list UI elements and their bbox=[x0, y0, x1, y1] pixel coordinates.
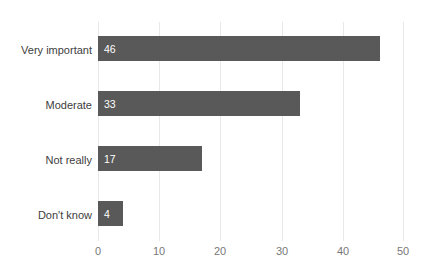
chart-title bbox=[14, 0, 414, 3]
x-axis-tick-label: 0 bbox=[95, 246, 101, 257]
y-axis-label: Very important bbox=[0, 45, 92, 56]
bar-row: 46 bbox=[98, 22, 404, 77]
y-axis-label: Don't know bbox=[0, 210, 92, 221]
plot-area: 46 33 17 4 bbox=[98, 22, 404, 241]
bar-value-label: 46 bbox=[104, 43, 116, 54]
x-axis-tick-label: 40 bbox=[337, 246, 349, 257]
x-axis-tick-labels: 0 10 20 30 40 50 bbox=[98, 246, 404, 262]
bar-row: 17 bbox=[98, 132, 404, 187]
bar: 4 bbox=[98, 201, 123, 226]
bar-value-label: 4 bbox=[104, 208, 110, 219]
bar: 33 bbox=[98, 91, 300, 116]
y-axis-category-labels: Very important Moderate Not really Don't… bbox=[0, 22, 92, 241]
x-axis-tick-label: 50 bbox=[397, 246, 409, 257]
y-axis-label: Not really bbox=[0, 155, 92, 166]
bar-value-label: 33 bbox=[104, 98, 116, 109]
bar: 46 bbox=[98, 36, 380, 61]
x-axis-tick-label: 20 bbox=[214, 246, 226, 257]
bar-row: 4 bbox=[98, 187, 404, 242]
bar-row: 33 bbox=[98, 77, 404, 132]
y-axis-label: Moderate bbox=[0, 100, 92, 111]
bar: 17 bbox=[98, 146, 202, 171]
x-axis-tick-label: 10 bbox=[153, 246, 165, 257]
bar-chart: Very important Moderate Not really Don't… bbox=[0, 0, 422, 274]
x-axis-tick-label: 30 bbox=[276, 246, 288, 257]
bar-value-label: 17 bbox=[104, 153, 116, 164]
